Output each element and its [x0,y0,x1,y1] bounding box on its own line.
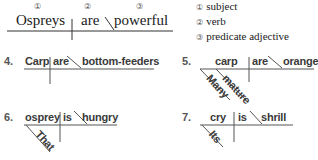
legend-label: subject [206,0,237,12]
legend-marker: ② [196,18,203,27]
exercise-number: 6. [4,111,13,123]
legend-marker: ① [196,3,203,12]
exercise-number: 7. [182,111,191,123]
example-complement: powerful [114,12,168,29]
exercise-subject: Carp [25,55,49,67]
legend-item-predicate-adjective: ③predicate adjective [196,30,289,42]
legend-item-verb: ②verb [196,15,226,27]
exercise-subject: cry [210,111,226,123]
exercise-complement: shrill [261,111,286,123]
exercise-verb: is [238,111,247,123]
marker-verb: ② [84,2,91,11]
exercise-complement: orange [283,55,318,67]
exercise-number: 5. [182,55,191,67]
legend-label: predicate adjective [206,30,289,42]
exercise-subject: osprey [25,111,60,123]
exercise-complement: hungry [82,111,118,123]
exercise-verb: are [252,55,268,67]
exercise-number: 4. [4,55,13,67]
legend-marker: ③ [196,33,203,42]
legend-item-subject: ①subject [196,0,237,12]
exercise-subject: carp [215,55,237,67]
example-verb: are [81,12,99,29]
exercise-verb: is [63,111,72,123]
exercise-verb: are [53,55,69,67]
marker-complement: ③ [136,2,143,11]
marker-subject: ① [34,2,41,11]
legend-label: verb [206,15,226,27]
example-subject: Ospreys [16,12,65,29]
exercise-complement: bottom-feeders [82,55,159,67]
